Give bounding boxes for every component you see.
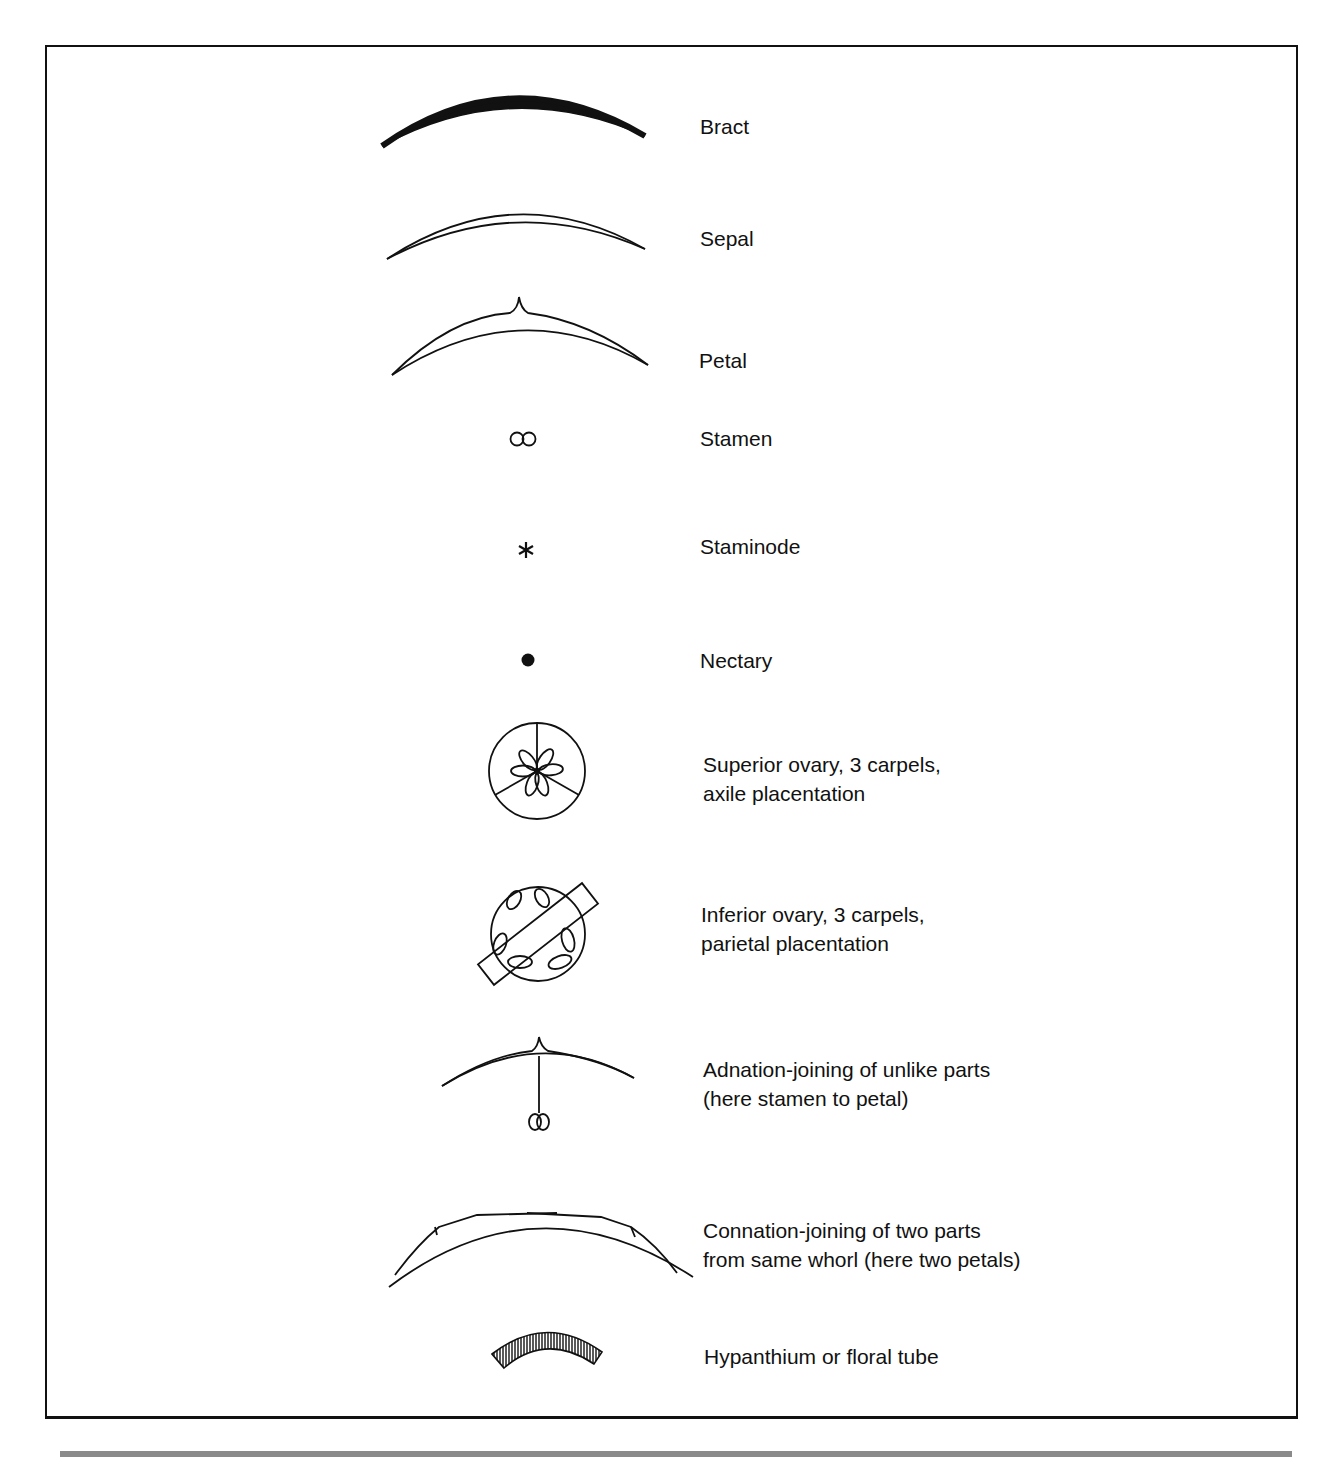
label-line-2: from same whorl (here two petals) [703, 1245, 1020, 1274]
label-line-1: Superior ovary, 3 carpels, [703, 750, 941, 779]
label-line-1: Adnation-joining of unlike parts [703, 1055, 990, 1084]
adnation-icon [440, 1035, 640, 1135]
connation-icon [387, 1205, 697, 1290]
label-line-2: parietal placentation [701, 929, 925, 958]
legend-label-inferior-ovary: Inferior ovary, 3 carpels, parietal plac… [701, 900, 925, 958]
legend-label-stamen: Stamen [700, 424, 772, 453]
label-line-1: Inferior ovary, 3 carpels, [701, 900, 925, 929]
legend-label-connation: Connation-joining of two parts from same… [703, 1216, 1020, 1274]
legend-label-superior-ovary: Superior ovary, 3 carpels, axile placent… [703, 750, 941, 808]
petal-icon [390, 297, 655, 379]
inferior-ovary-icon [482, 884, 594, 984]
legend-label-nectary: Nectary [700, 646, 772, 675]
label-line-2: (here stamen to petal) [703, 1084, 990, 1113]
label-line-1: Connation-joining of two parts [703, 1216, 1020, 1245]
legend-label-hypanthium: Hypanthium or floral tube [704, 1342, 939, 1371]
legend-label-sepal: Sepal [700, 224, 754, 253]
legend-label-bract: Bract [700, 112, 749, 141]
sepal-icon [385, 195, 650, 265]
staminode-icon [517, 541, 535, 559]
bottom-rule [60, 1451, 1292, 1457]
label-line-2: axile placentation [703, 779, 941, 808]
legend-label-adnation: Adnation-joining of unlike parts (here s… [703, 1055, 990, 1113]
nectary-icon [521, 653, 537, 669]
bract-icon [380, 78, 650, 150]
superior-ovary-icon [485, 719, 589, 823]
legend-label-staminode: Staminode [700, 532, 800, 561]
stamen-icon [509, 430, 539, 448]
legend-label-petal: Petal [699, 346, 747, 375]
hypanthium-icon [490, 1328, 606, 1372]
